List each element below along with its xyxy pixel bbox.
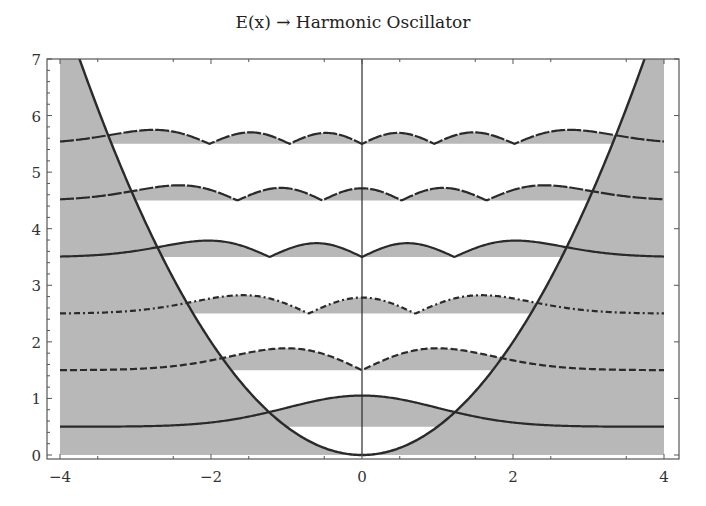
y-tick-label: 4 bbox=[31, 221, 41, 239]
x-tick-label: 0 bbox=[357, 468, 367, 486]
y-tick-label: 0 bbox=[31, 447, 41, 465]
plot-area: −4−202401234567 bbox=[0, 0, 706, 506]
y-tick-label: 1 bbox=[31, 390, 41, 408]
y-tick-label: 2 bbox=[31, 334, 41, 352]
plot-content bbox=[60, 2, 664, 455]
y-tick-label: 6 bbox=[31, 108, 41, 126]
x-tick-label: 4 bbox=[659, 468, 669, 486]
y-tick-label: 5 bbox=[31, 164, 41, 182]
y-tick-label: 7 bbox=[31, 51, 41, 69]
x-tick-label: −2 bbox=[200, 468, 222, 486]
x-tick-label: −4 bbox=[49, 468, 71, 486]
x-tick-label: 2 bbox=[508, 468, 518, 486]
y-tick-label: 3 bbox=[31, 277, 41, 295]
